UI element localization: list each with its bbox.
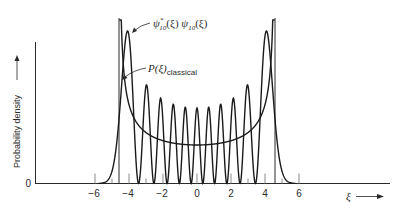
p-symbol: P(ξ) xyxy=(147,62,167,75)
psi2-arg: (ξ) xyxy=(195,17,208,30)
x-axis-tick-labels: −6 −4 −2 0 2 4 6 xyxy=(88,188,302,199)
tick-label: −2 xyxy=(156,188,168,199)
psi-conjugate-sup: * xyxy=(160,16,164,24)
x-axis-ticks xyxy=(95,174,299,184)
psi-annotation-arrowhead-icon xyxy=(132,28,137,34)
y-axis-arrowhead-icon xyxy=(15,55,20,61)
x-axis-arrowhead-icon xyxy=(377,194,384,199)
classical-annotation-label: P(ξ)classical xyxy=(147,62,197,77)
y-axis-label: Probability density xyxy=(12,94,22,168)
classical-annotation-arrow xyxy=(125,68,146,77)
p-sub: classical xyxy=(167,68,197,77)
psi-annotation-arrow xyxy=(134,23,150,31)
tick-label: 2 xyxy=(228,188,234,199)
probability-density-chart: −6 −4 −2 0 2 4 6 0 Probability density ξ… xyxy=(0,0,404,210)
psi2-symbol: ψ xyxy=(179,17,189,29)
tick-label: 4 xyxy=(262,188,268,199)
y-axis-label-group: Probability density xyxy=(12,55,22,168)
tick-label: 6 xyxy=(296,188,302,199)
quantum-density-curve xyxy=(98,31,295,183)
psi-annotation-label: ψ*10(ξ) ψ10(ξ) xyxy=(153,16,208,32)
tick-label: 0 xyxy=(194,188,200,199)
tick-label: −4 xyxy=(122,188,134,199)
x-axis-label: ξ xyxy=(346,190,351,203)
tick-label: −6 xyxy=(88,188,100,199)
psi-arg: (ξ) xyxy=(166,17,179,30)
y-zero-label: 0 xyxy=(25,178,31,189)
